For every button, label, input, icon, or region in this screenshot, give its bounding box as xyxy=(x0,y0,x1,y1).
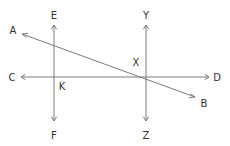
label-b: B xyxy=(201,98,208,109)
label-e: E xyxy=(51,10,57,21)
line-cd xyxy=(21,75,209,80)
line-ef xyxy=(52,25,57,121)
label-a: A xyxy=(10,25,17,36)
line-ab xyxy=(22,33,195,97)
label-f: F xyxy=(51,130,57,141)
line-yz xyxy=(144,25,149,121)
label-x-intersection: X xyxy=(133,57,140,68)
label-z: Z xyxy=(143,130,150,141)
label-d: D xyxy=(213,72,221,83)
label-y: Y xyxy=(142,10,150,21)
label-k-intersection: K xyxy=(59,81,66,92)
geometry-diagram: A B C D E F Y Z X K xyxy=(0,0,230,146)
label-c: C xyxy=(9,72,16,83)
